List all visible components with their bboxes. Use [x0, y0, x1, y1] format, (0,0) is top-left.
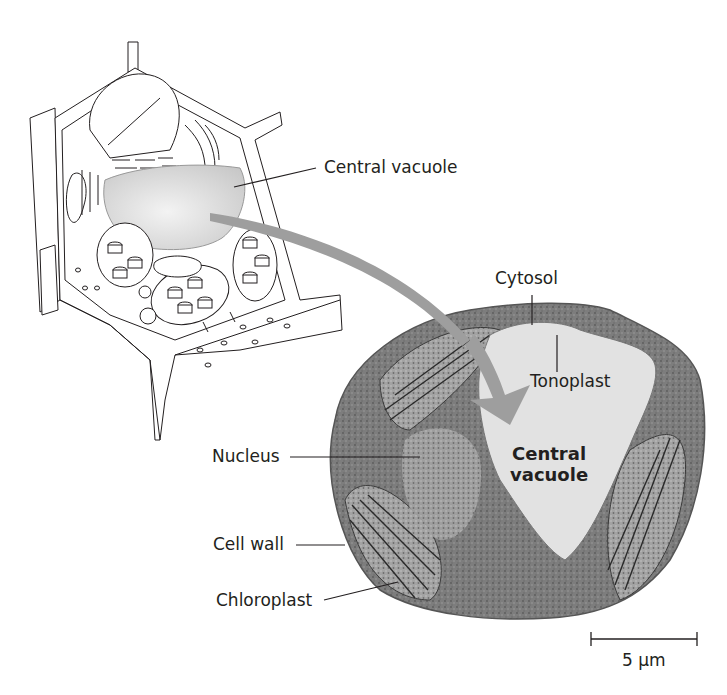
- label-central-vacuole-line1: Central: [510, 444, 588, 465]
- label-central-vacuole-line2: vacuole: [510, 465, 588, 486]
- label-central-vacuole-micrograph: Central vacuole: [510, 444, 588, 485]
- label-chloroplast: Chloroplast: [216, 592, 312, 609]
- label-cell-wall: Cell wall: [213, 536, 284, 553]
- label-tonoplast: Tonoplast: [530, 373, 611, 390]
- plant-cell-figure: Central vacuole Cytosol Tonoplast Nucleu…: [0, 0, 727, 695]
- label-nucleus: Nucleus: [212, 448, 280, 465]
- scale-bar-line: [591, 632, 697, 646]
- label-cytosol: Cytosol: [495, 270, 558, 287]
- scale-bar-label: 5 µm: [622, 652, 666, 669]
- label-central-vacuole-drawing: Central vacuole: [324, 159, 458, 176]
